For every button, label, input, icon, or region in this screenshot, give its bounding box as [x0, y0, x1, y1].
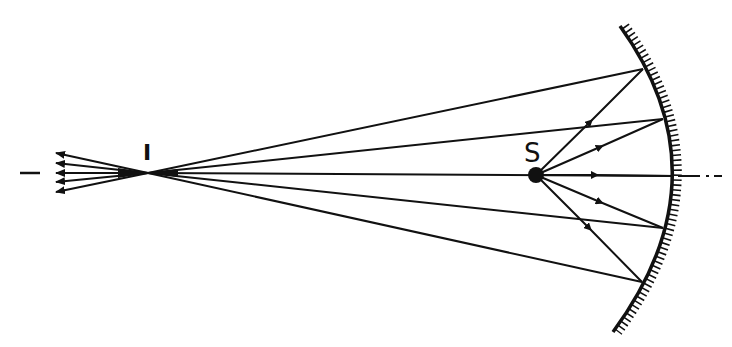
image-label: I [143, 140, 151, 165]
concave-mirror [613, 26, 677, 332]
mirror-diagram: S I [0, 0, 732, 347]
source-point [528, 167, 544, 183]
ray-diagram-svg [0, 0, 732, 347]
source-label: S [524, 138, 541, 168]
reflected-rays [148, 69, 673, 282]
